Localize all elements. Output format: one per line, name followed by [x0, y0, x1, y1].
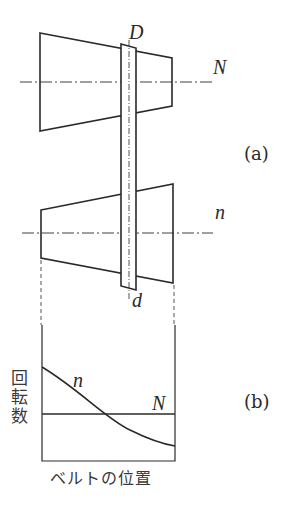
caption-b: (b) [244, 393, 270, 411]
y-axis-label-char-1: 回 [11, 370, 28, 387]
caption-a: (a) [244, 145, 269, 163]
label-n-driven: n [215, 202, 225, 222]
line-N-label: N [152, 393, 165, 413]
label-D: D [129, 22, 143, 42]
label-N-driver: N [213, 57, 226, 77]
y-axis-label-char-2: 転 [11, 389, 28, 406]
x-axis-label: ベルトの位置 [50, 471, 152, 487]
label-d: d [132, 290, 142, 310]
diagram-canvas [0, 0, 292, 508]
curve-n-label: n [73, 370, 83, 390]
y-axis-label-char-3: 数 [11, 408, 28, 425]
driven-cone-pulley [41, 184, 173, 283]
belt [121, 40, 136, 300]
